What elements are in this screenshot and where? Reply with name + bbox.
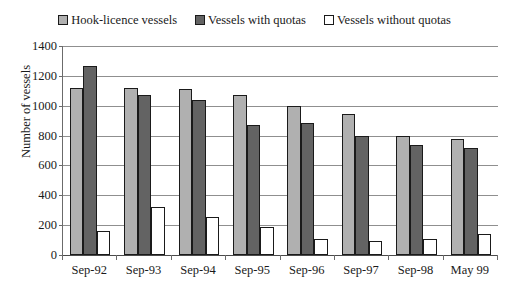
x-tick-mark	[443, 255, 444, 260]
bar[interactable]	[369, 241, 383, 255]
x-tick-label: Sep-97	[343, 263, 378, 278]
bar-group	[451, 46, 492, 255]
y-tick-label: 800	[38, 128, 57, 143]
legend-label: Vessels with quotas	[208, 14, 306, 27]
bar[interactable]	[206, 217, 220, 255]
x-tick-mark	[225, 255, 226, 260]
x-tick-label: Sep-94	[180, 263, 215, 278]
bar[interactable]	[464, 148, 478, 255]
bar-group	[233, 46, 274, 255]
bar[interactable]	[233, 95, 247, 255]
x-tick-label: Sep-98	[398, 263, 433, 278]
y-tick-label: 400	[38, 188, 57, 203]
y-tick-label: 600	[38, 158, 57, 173]
bar[interactable]	[342, 114, 356, 255]
bar[interactable]	[478, 234, 492, 255]
bar[interactable]	[179, 89, 193, 255]
legend-label: Vessels without quotas	[337, 14, 451, 27]
legend-label: Hook-licence vessels	[71, 14, 177, 27]
x-tick-mark	[280, 255, 281, 260]
bar[interactable]	[396, 136, 410, 255]
x-tick-label: Sep-93	[126, 263, 161, 278]
x-tick-mark	[334, 255, 335, 260]
x-tick-mark	[62, 255, 63, 260]
bar[interactable]	[423, 239, 437, 255]
bar-group	[70, 46, 111, 255]
x-tick-mark	[116, 255, 117, 260]
bar[interactable]	[451, 139, 465, 255]
y-tick-label: 200	[38, 218, 57, 233]
bar-group	[396, 46, 437, 255]
bar[interactable]	[83, 66, 97, 255]
bar-group	[124, 46, 165, 255]
legend-swatch-icon	[58, 15, 68, 25]
y-tick-label: 1000	[32, 98, 57, 113]
bar[interactable]	[138, 95, 152, 255]
x-tick-label: Sep-95	[235, 263, 270, 278]
y-tick-label: 1200	[32, 68, 57, 83]
bar[interactable]	[70, 88, 84, 255]
bar[interactable]	[247, 125, 261, 255]
bar[interactable]	[260, 227, 274, 255]
bar[interactable]	[314, 239, 328, 255]
bar-group	[179, 46, 220, 255]
legend-swatch-icon	[324, 15, 334, 25]
y-tick-label: 0	[51, 248, 57, 263]
x-tick-mark	[388, 255, 389, 260]
bar-group	[287, 46, 328, 255]
bar-group	[342, 46, 383, 255]
bar[interactable]	[124, 88, 138, 255]
bars-layer	[63, 46, 498, 255]
bar[interactable]	[301, 123, 315, 255]
x-tick-mark	[497, 255, 498, 260]
x-tick-label: May 99	[451, 263, 490, 278]
legend-swatch-icon	[195, 15, 205, 25]
bar[interactable]	[410, 145, 424, 255]
plot-area: 0200400600800100012001400	[62, 46, 498, 255]
bar-chart: Hook-licence vesselsVessels with quotasV…	[0, 0, 509, 291]
bar[interactable]	[287, 106, 301, 255]
legend-entry[interactable]: Vessels with quotas	[195, 14, 306, 27]
legend-entry[interactable]: Hook-licence vessels	[58, 14, 177, 27]
x-tick-mark	[171, 255, 172, 260]
legend-entry[interactable]: Vessels without quotas	[324, 14, 451, 27]
x-tick-label: Sep-92	[71, 263, 106, 278]
y-tick-label: 1400	[32, 39, 57, 54]
x-tick-label: Sep-96	[289, 263, 324, 278]
bar[interactable]	[151, 207, 165, 255]
bar[interactable]	[355, 136, 369, 255]
bar[interactable]	[97, 231, 111, 255]
bar[interactable]	[192, 100, 206, 255]
chart-legend: Hook-licence vesselsVessels with quotasV…	[0, 10, 509, 30]
